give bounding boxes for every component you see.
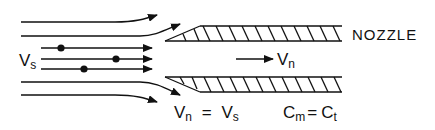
streamline-top-inner xyxy=(21,24,180,36)
isokinetic-nozzle-diagram: NOZZLE Vs Vn Vn = Vs Cm=Ct xyxy=(0,0,435,130)
stream-velocity-subscript: s xyxy=(30,58,36,72)
streamline-bottom-inner xyxy=(21,82,180,95)
streamline-bottom-outer xyxy=(21,95,157,102)
concentration-eq-right-symbol: C xyxy=(321,103,333,122)
particle-paths xyxy=(41,48,152,69)
concentration-eq-left-subscript: m xyxy=(295,110,305,124)
streamline-top-outer xyxy=(21,15,157,22)
concentration-eq-operator: = xyxy=(307,103,317,122)
nozzle-wall-lower xyxy=(165,77,342,92)
particle-dot-1 xyxy=(57,44,64,51)
concentration-eq-left-symbol: C xyxy=(283,103,295,122)
nozzle-label: NOZZLE xyxy=(352,26,417,43)
stream-velocity-label: Vs xyxy=(19,52,36,69)
particle-dot-2 xyxy=(112,55,119,62)
velocity-eq-operator: = xyxy=(202,103,212,122)
nozzle-velocity-symbol: V xyxy=(277,50,288,69)
concentration-eq-right-subscript: t xyxy=(334,110,337,124)
velocity-equation: Vn = Vs xyxy=(174,104,239,121)
lower-streamlines xyxy=(21,82,180,102)
stream-velocity-symbol: V xyxy=(19,51,30,70)
nozzle-velocity-label: Vn xyxy=(277,51,295,68)
velocity-eq-right-subscript: s xyxy=(233,110,239,124)
concentration-equation: Cm=Ct xyxy=(283,104,337,121)
velocity-eq-left-subscript: n xyxy=(185,110,192,124)
velocity-eq-right-symbol: V xyxy=(221,103,232,122)
upper-streamlines xyxy=(21,15,180,36)
particle-dot-3 xyxy=(80,65,87,72)
nozzle-wall-upper xyxy=(165,26,342,41)
velocity-eq-left-symbol: V xyxy=(174,103,185,122)
nozzle-velocity-subscript: n xyxy=(288,57,295,71)
